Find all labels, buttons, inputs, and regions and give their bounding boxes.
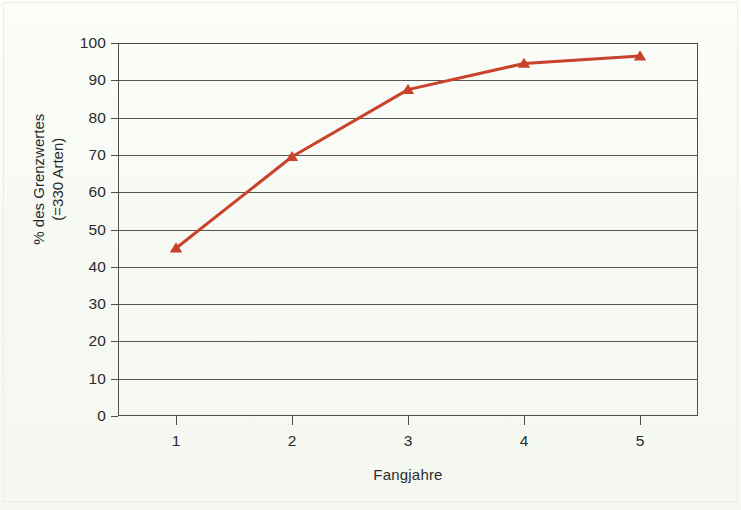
y-axis-title-line-2: (=330 Arten) xyxy=(48,69,67,289)
series-markers xyxy=(170,50,646,252)
line-chart: 0102030405060708090100 12345 Fangjahre %… xyxy=(0,0,741,510)
x-axis-title: Fangjahre xyxy=(118,466,698,483)
y-axis-title: % des Grenzwertes (=330 Arten) xyxy=(29,69,67,289)
data-series-layer xyxy=(0,0,741,510)
y-axis-title-line-1: % des Grenzwertes xyxy=(29,69,48,289)
